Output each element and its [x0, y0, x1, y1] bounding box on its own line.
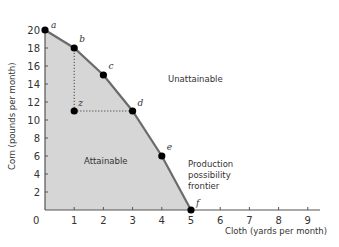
point-z [71, 107, 78, 114]
attainable-label: Attainable [84, 156, 127, 166]
x-tick-label: 9 [305, 215, 311, 226]
origin-label: 0 [33, 215, 39, 226]
x-tick-label: 7 [246, 215, 252, 226]
point-a [41, 26, 48, 33]
attainable-area [45, 30, 191, 210]
unattainable-label: Unattainable [168, 74, 223, 84]
y-tick-label: 12 [27, 97, 40, 108]
y-tick-label: 20 [27, 25, 40, 36]
y-tick-label: 18 [27, 43, 40, 54]
y-tick-label: 10 [27, 115, 40, 126]
attainable-region [45, 30, 191, 210]
point-label-b: b [79, 34, 85, 44]
x-tick-label: 4 [159, 215, 165, 226]
ppf-label-line3: frontier [188, 181, 220, 191]
x-tick-label: 5 [188, 215, 194, 226]
ppf-label-line2: possibility [188, 170, 231, 180]
point-label-d: d [138, 98, 144, 108]
y-tick-label: 4 [34, 169, 40, 180]
y-axis-label: Corn (pounds per month) [7, 62, 17, 170]
x-tick-label: 2 [100, 215, 106, 226]
point-b [71, 44, 78, 51]
point-label-a: a [51, 20, 56, 30]
y-tick-label: 14 [27, 79, 40, 90]
y-tick-label: 16 [27, 61, 40, 72]
y-tick-label: 2 [34, 187, 40, 198]
y-tick-label: 8 [34, 133, 40, 144]
ppf-label-line1: Production [188, 159, 233, 169]
point-label-e: e [167, 142, 172, 152]
y-tick-label: 6 [34, 151, 40, 162]
point-label-z: z [77, 98, 83, 108]
point-d [129, 107, 136, 114]
point-f [187, 206, 194, 213]
point-label-f: f [195, 198, 201, 208]
point-e [158, 152, 165, 159]
x-tick-label: 1 [71, 215, 77, 226]
point-c [100, 71, 107, 78]
x-axis-label: Cloth (yards per month) [225, 226, 327, 236]
ppf-chart: 1234567892468101214161820 abcdefz Unatta… [0, 0, 339, 247]
point-label-c: c [108, 61, 113, 71]
x-tick-label: 6 [217, 215, 223, 226]
x-tick-label: 3 [129, 215, 135, 226]
x-tick-label: 8 [275, 215, 281, 226]
